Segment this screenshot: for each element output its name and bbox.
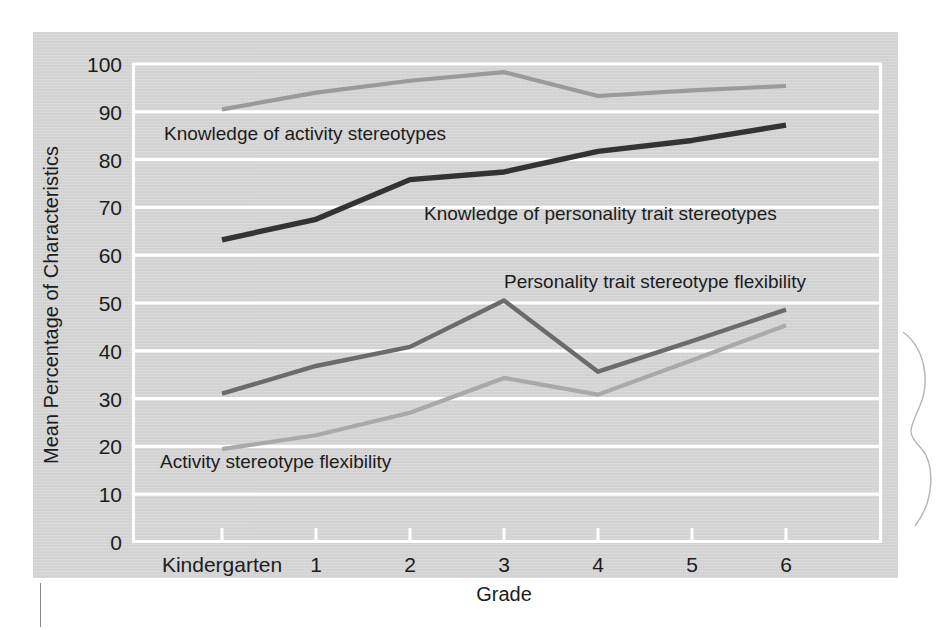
figure-root: 100 90 80 70 60 50 40 30 20 10 0 Mean Pe… bbox=[0, 0, 938, 630]
x-tick-label-2: 2 bbox=[404, 553, 416, 576]
x-tick-label-3: 3 bbox=[498, 553, 510, 576]
series-label-activity-stereotype-flexibility: Activity stereotype flexibility bbox=[160, 451, 392, 472]
x-tick-label-1: 1 bbox=[310, 553, 322, 576]
x-tick-label-4: 4 bbox=[592, 553, 604, 576]
x-tick-labels: Kindergarten 1 2 3 4 5 6 bbox=[162, 553, 792, 576]
y-tick-label-20: 20 bbox=[99, 435, 122, 458]
y-tick-label-100: 100 bbox=[87, 53, 122, 76]
y-tick-label-50: 50 bbox=[99, 292, 122, 315]
series-label-knowledge-personality-trait-stereotypes: Knowledge of personality trait stereotyp… bbox=[424, 203, 777, 224]
series-line-knowledge-activity-stereotypes bbox=[222, 72, 786, 109]
series-label-knowledge-activity-stereotypes: Knowledge of activity stereotypes bbox=[164, 123, 446, 144]
x-axis-title: Grade bbox=[476, 583, 532, 605]
series-line-activity-stereotype-flexibility bbox=[222, 325, 786, 449]
y-tick-label-10: 10 bbox=[99, 483, 122, 506]
x-tick-label-kindergarten: Kindergarten bbox=[162, 553, 282, 576]
line-chart: 100 90 80 70 60 50 40 30 20 10 0 Mean Pe… bbox=[0, 0, 938, 630]
series-label-personality-trait-stereotype-flexibility: Personality trait stereotype flexibility bbox=[504, 271, 807, 292]
x-tick-label-6: 6 bbox=[780, 553, 792, 576]
y-tick-label-60: 60 bbox=[99, 244, 122, 267]
x-tick-label-5: 5 bbox=[686, 553, 698, 576]
y-tick-label-0: 0 bbox=[110, 531, 122, 554]
y-tick-label-80: 80 bbox=[99, 149, 122, 172]
y-tick-label-90: 90 bbox=[99, 101, 122, 124]
y-tick-label-70: 70 bbox=[99, 196, 122, 219]
y-tick-label-40: 40 bbox=[99, 340, 122, 363]
y-tick-label-30: 30 bbox=[99, 388, 122, 411]
y-tick-labels: 100 90 80 70 60 50 40 30 20 10 0 bbox=[87, 53, 122, 554]
y-axis-title: Mean Percentage of Characteristics bbox=[40, 146, 62, 464]
